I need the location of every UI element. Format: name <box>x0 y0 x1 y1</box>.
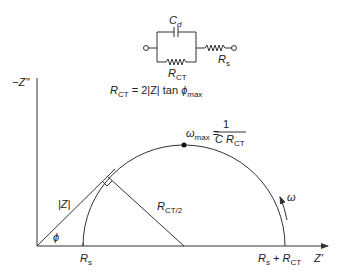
omega-max-numerator: 1 <box>223 118 229 130</box>
x-tick-rs: Rs <box>80 252 92 267</box>
semicircle-arc <box>83 145 285 246</box>
resistor-s-icon <box>205 45 225 51</box>
left-terminal <box>144 46 149 51</box>
x-axis-label: Z' <box>313 252 324 264</box>
x-tick-rs-plus-rct: Rs + RCT <box>258 252 301 267</box>
parallel-wires <box>157 32 196 62</box>
nyquist-diagram: Cd RCT Rs RCT = 2|Z| tan ϕmax −Z'' Z' ω … <box>0 0 340 277</box>
resistor-ct-label: RCT <box>168 67 187 82</box>
phase-angle-label: ϕ <box>53 231 59 243</box>
omega-max-point <box>182 143 187 148</box>
impedance-vector <box>37 169 115 246</box>
right-terminal <box>232 46 237 51</box>
omega-max-denominator: C RCT <box>215 133 245 148</box>
radius-label: RCT/2 <box>157 200 183 215</box>
capacitor-label: Cd <box>169 14 182 29</box>
resistor-ct-icon <box>166 59 186 65</box>
omega-max-annotation: ωmax = 1 C RCT <box>186 118 246 148</box>
equivalent-circuit: Cd RCT Rs <box>144 14 237 82</box>
frequency-arrow-label: ω <box>287 191 296 203</box>
y-axis-label: −Z'' <box>12 76 30 88</box>
rct-equation: RCT = 2|Z| tan ϕmax <box>110 84 202 99</box>
impedance-magnitude-label: |Z| <box>58 198 71 210</box>
resistor-s-label: Rs <box>218 53 230 68</box>
